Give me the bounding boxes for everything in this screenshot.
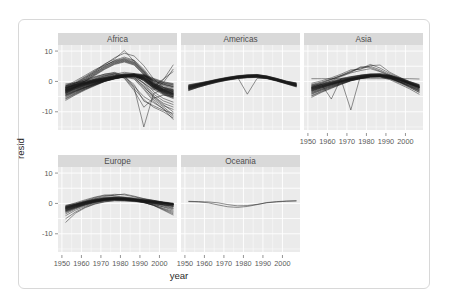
facet-strip-label-europe: Europe: [104, 157, 131, 166]
y-axis-tick-label: 0: [48, 199, 52, 208]
facet-strip-label-americas: Americas: [223, 35, 257, 44]
facet-panel-oceania: Oceania195019601970198019902000: [177, 155, 300, 268]
facet-strip-label-oceania: Oceania: [225, 157, 256, 166]
x-axis-tick-label: 1950: [177, 259, 193, 268]
faceted-line-chart: Africa-10010AmericasAsia1950196019701980…: [0, 0, 449, 307]
x-axis-tick-label: 1970: [339, 137, 355, 146]
facet-strip-label-asia: Asia: [356, 35, 372, 44]
facet-panel-americas: Americas: [181, 33, 300, 130]
x-axis-tick-label: 2000: [151, 259, 167, 268]
y-axis-tick-label: -10: [42, 107, 53, 116]
figure-root: Africa-10010AmericasAsia1950196019701980…: [0, 0, 449, 307]
x-axis-tick-label: 2000: [274, 259, 290, 268]
facet-panel-asia: Asia195019601970198019902000: [300, 33, 423, 146]
x-axis-tick-label: 1960: [319, 137, 335, 146]
x-axis-tick-label: 1980: [112, 259, 128, 268]
y-axis-title: resid: [15, 138, 26, 159]
x-axis-tick-label: 1950: [54, 259, 70, 268]
y-axis-tick-label: 10: [44, 47, 52, 56]
x-axis-tick-label: 1990: [378, 137, 394, 146]
x-axis-tick-label: 1990: [132, 259, 148, 268]
y-axis-tick-label: 0: [48, 77, 52, 86]
x-axis-tick-label: 1990: [255, 259, 271, 268]
facet-panel-africa: Africa-10010: [42, 33, 177, 130]
x-axis-tick-label: 1960: [73, 259, 89, 268]
x-axis-title: year: [170, 270, 189, 281]
x-axis-tick-label: 1980: [358, 137, 374, 146]
facet-strip-label-africa: Africa: [107, 35, 128, 44]
x-axis-tick-label: 1970: [93, 259, 109, 268]
x-axis-tick-label: 1960: [196, 259, 212, 268]
y-axis-tick-label: 10: [44, 169, 52, 178]
x-axis-tick-label: 2000: [397, 137, 413, 146]
y-axis-tick-label: -10: [42, 229, 53, 238]
x-axis-tick-label: 1980: [235, 259, 251, 268]
facet-panel-europe: Europe-10010195019601970198019902000: [42, 155, 177, 268]
x-axis-tick-label: 1950: [300, 137, 316, 146]
x-axis-tick-label: 1970: [216, 259, 232, 268]
